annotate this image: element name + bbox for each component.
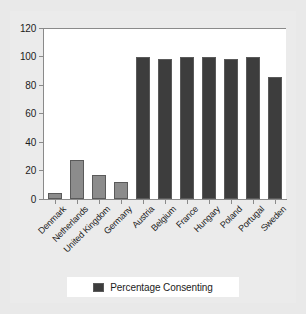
bar-slot bbox=[48, 28, 62, 199]
bar-slot bbox=[246, 28, 260, 199]
chart-legend: Percentage Consenting bbox=[67, 277, 239, 297]
bar-slot bbox=[224, 28, 238, 199]
y-axis-tick-label: 80 bbox=[25, 80, 39, 91]
bar bbox=[202, 57, 216, 199]
bar-slot bbox=[158, 28, 172, 199]
bar bbox=[246, 57, 260, 199]
bar bbox=[268, 77, 282, 199]
bar-slot bbox=[92, 28, 106, 199]
y-axis-tick-mark bbox=[39, 85, 43, 86]
bar-slot bbox=[136, 28, 150, 199]
y-axis-tick-mark bbox=[39, 28, 43, 29]
y-axis-tick-mark bbox=[39, 113, 43, 114]
legend-swatch-icon bbox=[93, 283, 104, 292]
y-axis-tick-label: 40 bbox=[25, 137, 39, 148]
bar-series-percentage-consenting bbox=[44, 28, 286, 199]
y-axis-tick-label: 100 bbox=[20, 51, 39, 62]
y-axis-tick: 0 bbox=[31, 193, 43, 205]
bar bbox=[92, 175, 106, 199]
y-axis-tick: 80 bbox=[25, 79, 43, 91]
y-axis-tick-label: 60 bbox=[25, 108, 39, 119]
bar-slot bbox=[180, 28, 194, 199]
bar bbox=[70, 160, 84, 199]
y-axis: 020406080100120 bbox=[10, 11, 43, 200]
y-axis-tick: 100 bbox=[20, 51, 43, 63]
y-axis-tick: 40 bbox=[25, 136, 43, 148]
x-axis-labels: DenmarkNetherlandsUnited KingdomGermanyA… bbox=[44, 204, 287, 264]
bar-slot bbox=[202, 28, 216, 199]
y-axis-tick: 120 bbox=[20, 22, 43, 34]
bar bbox=[224, 59, 238, 199]
y-axis-tick-label: 120 bbox=[20, 23, 39, 34]
bar-slot bbox=[114, 28, 128, 199]
chart-figure: 020406080100120 DenmarkNetherlandsUnited… bbox=[10, 11, 296, 303]
y-axis-tick-mark bbox=[39, 142, 43, 143]
y-axis-tick: 20 bbox=[25, 165, 43, 177]
y-axis-tick-label: 20 bbox=[25, 165, 39, 176]
y-axis-tick-mark bbox=[39, 170, 43, 171]
y-axis-tick-label: 0 bbox=[31, 194, 39, 205]
bar bbox=[158, 59, 172, 199]
bar bbox=[136, 57, 150, 199]
bar bbox=[114, 182, 128, 199]
legend-label: Percentage Consenting bbox=[110, 282, 212, 293]
bar-slot bbox=[268, 28, 282, 199]
bar-slot bbox=[70, 28, 84, 199]
bar bbox=[180, 57, 194, 199]
y-axis-tick: 60 bbox=[25, 108, 43, 120]
y-axis-tick-mark bbox=[39, 56, 43, 57]
y-axis-tick-mark bbox=[39, 199, 43, 200]
